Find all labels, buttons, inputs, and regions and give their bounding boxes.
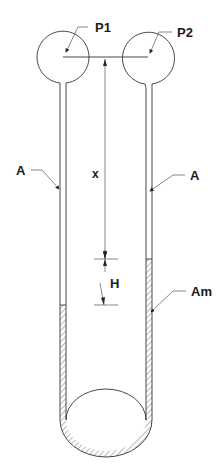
- label-a-right: A: [190, 168, 200, 183]
- right-bulb: [123, 32, 175, 84]
- label-p1: P1: [95, 20, 111, 35]
- manometer-diagram: P1 P2 x H A A Am: [0, 0, 218, 471]
- label-x: x: [92, 167, 99, 181]
- dimension-x: x: [92, 59, 107, 258]
- a-left-callout: A: [16, 163, 59, 189]
- label-p2: P2: [177, 25, 193, 40]
- a-right-callout: A: [150, 168, 200, 191]
- u-tube: [37, 31, 175, 457]
- label-a-left: A: [16, 163, 26, 178]
- p1-callout: P1: [66, 20, 111, 52]
- label-h: H: [110, 276, 119, 291]
- dimension-h: H: [94, 250, 119, 305]
- label-am: Am: [191, 284, 212, 299]
- p2-callout: P2: [150, 25, 193, 53]
- am-callout: Am: [151, 284, 212, 312]
- manometer-fluid: [60, 259, 152, 457]
